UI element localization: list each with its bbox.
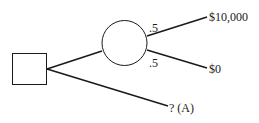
branch-to-alternative-a xyxy=(47,69,168,106)
branch-to-chance-node xyxy=(47,51,102,69)
probability-label-top: .5 xyxy=(149,22,158,34)
chance-node-circle xyxy=(102,21,147,66)
decision-node-square xyxy=(13,54,47,85)
outcome-label-win: $10,000 xyxy=(209,11,248,23)
probability-label-bottom: .5 xyxy=(149,57,158,69)
outcome-label-alternative: ? (A) xyxy=(169,102,194,114)
outcome-label-lose: $0 xyxy=(209,63,221,75)
